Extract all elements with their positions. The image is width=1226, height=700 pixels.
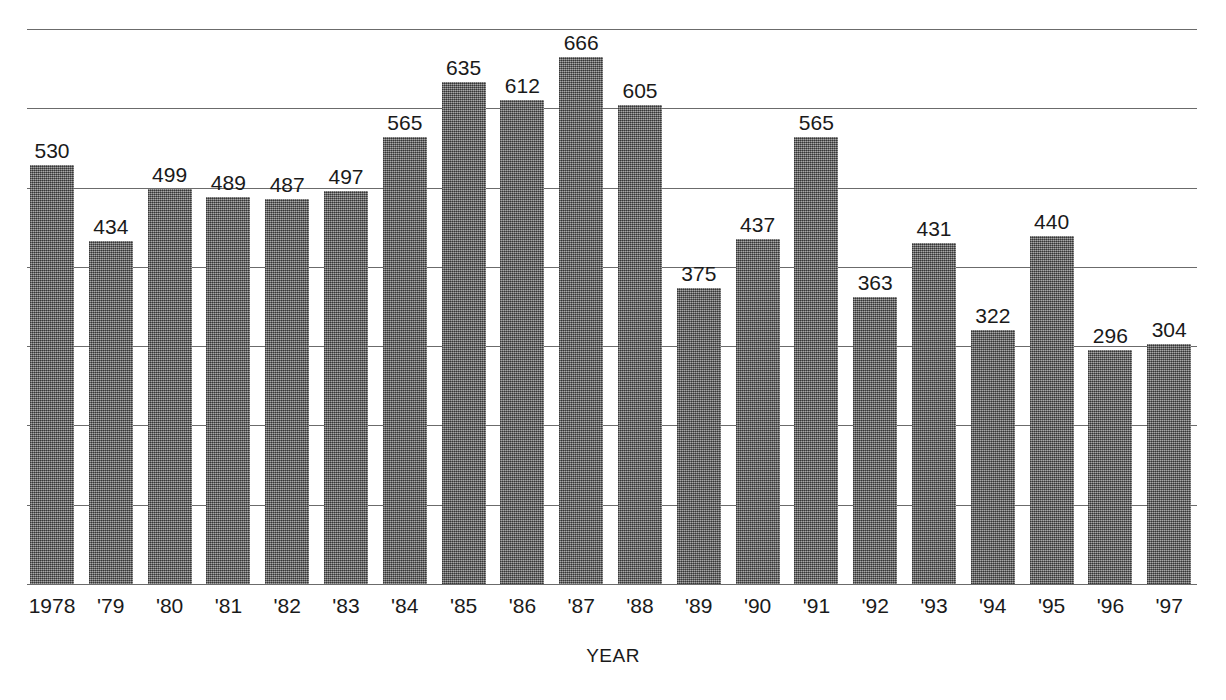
x-tick-label: '83 (316, 592, 376, 620)
bar[interactable] (794, 137, 838, 585)
bar[interactable] (559, 57, 603, 585)
bar[interactable] (912, 243, 956, 585)
bars-group: 5304344994894874975656356126666053754375… (27, 30, 1197, 585)
bar-value-label: 565 (799, 112, 834, 133)
x-tick-label: '80 (140, 592, 200, 620)
plot-area: 5304344994894874975656356126666053754375… (27, 30, 1197, 585)
bar[interactable] (677, 288, 721, 585)
bar-value-label: 431 (916, 218, 951, 239)
bar-value-label: 363 (858, 272, 893, 293)
x-axis-title: YEAR (0, 645, 1226, 667)
x-tick-label: '85 (434, 592, 494, 620)
bar-value-label: 440 (1034, 211, 1069, 232)
x-tick-label: '82 (257, 592, 317, 620)
x-tick-label: '87 (551, 592, 611, 620)
bar-column[interactable]: 666 (559, 30, 603, 585)
bar[interactable] (1147, 344, 1191, 585)
bar-column[interactable]: 497 (324, 30, 368, 585)
bar[interactable] (442, 82, 486, 585)
bar[interactable] (1088, 350, 1132, 585)
bar[interactable] (206, 197, 250, 585)
axis-baseline (27, 584, 1197, 585)
bar-value-label: 487 (270, 174, 305, 195)
bar-column[interactable]: 605 (618, 30, 662, 585)
bar-column[interactable]: 565 (383, 30, 427, 585)
bar-value-label: 565 (387, 112, 422, 133)
bar-value-label: 434 (93, 216, 128, 237)
bar-column[interactable]: 437 (736, 30, 780, 585)
bar-value-label: 666 (564, 32, 599, 53)
bar-value-label: 605 (622, 80, 657, 101)
bar-value-label: 322 (975, 305, 1010, 326)
bar-column[interactable]: 375 (677, 30, 721, 585)
bar[interactable] (618, 105, 662, 585)
bar-column[interactable]: 431 (912, 30, 956, 585)
bar[interactable] (30, 165, 74, 585)
bar-value-label: 375 (681, 263, 716, 284)
bar[interactable] (736, 239, 780, 585)
bar[interactable] (148, 189, 192, 585)
bar-value-label: 635 (446, 57, 481, 78)
bar-column[interactable]: 363 (853, 30, 897, 585)
bar-value-label: 612 (505, 75, 540, 96)
bar-value-label: 437 (740, 214, 775, 235)
bar[interactable] (89, 241, 133, 585)
x-tick-label: '84 (375, 592, 435, 620)
bar-value-label: 304 (1152, 319, 1187, 340)
x-tick-label: '90 (728, 592, 788, 620)
bar-column[interactable]: 296 (1088, 30, 1132, 585)
bar[interactable] (324, 191, 368, 585)
bar[interactable] (383, 137, 427, 585)
x-tick-label: '86 (492, 592, 552, 620)
bar[interactable] (971, 330, 1015, 585)
bar[interactable] (1030, 236, 1074, 585)
bar-value-label: 497 (328, 166, 363, 187)
x-tick-label: '93 (904, 592, 964, 620)
bar-column[interactable]: 489 (206, 30, 250, 585)
bar-value-label: 489 (211, 172, 246, 193)
bar-column[interactable]: 635 (442, 30, 486, 585)
bar-column[interactable]: 322 (971, 30, 1015, 585)
x-tick-label: '96 (1080, 592, 1140, 620)
bar-chart: 5304344994894874975656356126666053754375… (0, 0, 1226, 700)
bar[interactable] (500, 100, 544, 585)
bar-value-label: 296 (1093, 325, 1128, 346)
x-tick-label: 1978 (22, 592, 82, 620)
bar-column[interactable]: 440 (1030, 30, 1074, 585)
bar-value-label: 530 (34, 140, 69, 161)
bar-column[interactable]: 499 (148, 30, 192, 585)
x-tick-label: '88 (610, 592, 670, 620)
bar[interactable] (265, 199, 309, 585)
bar-column[interactable]: 487 (265, 30, 309, 585)
bar-column[interactable]: 530 (30, 30, 74, 585)
bar-column[interactable]: 612 (500, 30, 544, 585)
x-axis-ticks: 1978'79'80'81'82'83'84'85'86'87'88'89'90… (27, 592, 1197, 626)
bar-column[interactable]: 434 (89, 30, 133, 585)
x-tick-label: '79 (81, 592, 141, 620)
x-tick-label: '91 (786, 592, 846, 620)
x-tick-label: '92 (845, 592, 905, 620)
x-tick-label: '94 (963, 592, 1023, 620)
bar-value-label: 499 (152, 164, 187, 185)
x-tick-label: '95 (1022, 592, 1082, 620)
x-tick-label: '81 (198, 592, 258, 620)
bar[interactable] (853, 297, 897, 585)
x-tick-label: '97 (1139, 592, 1199, 620)
x-tick-label: '89 (669, 592, 729, 620)
bar-column[interactable]: 565 (794, 30, 838, 585)
bar-column[interactable]: 304 (1147, 30, 1191, 585)
